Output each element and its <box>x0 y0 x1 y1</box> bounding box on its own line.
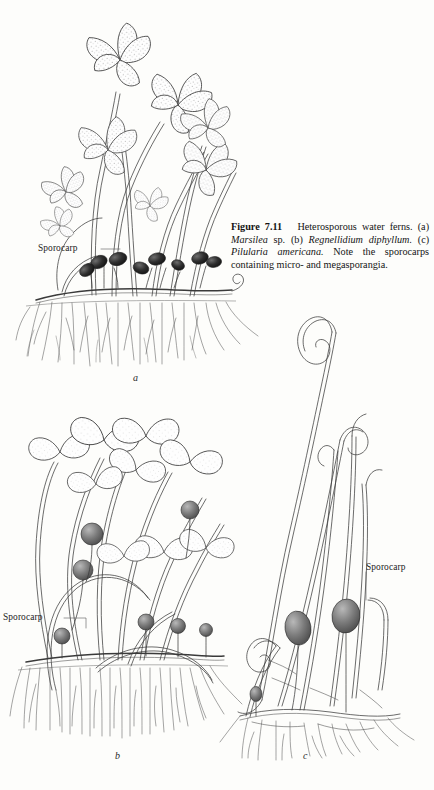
caption-a-suffix: sp. <box>274 234 286 245</box>
marsilea-illustration <box>16 20 258 366</box>
caption-c-prefix: (c) <box>418 234 429 245</box>
caption-c-species: Pilularia americana. <box>231 246 324 257</box>
caption-a-prefix: (a) <box>418 221 429 232</box>
caption-a-genus: Marsilea <box>231 234 268 245</box>
illustration-canvas <box>0 0 434 790</box>
pilularia-illustration <box>220 317 414 760</box>
panel-letter-c: c <box>303 750 307 761</box>
caption-b-species: Regnellidium diphyllum. <box>309 234 412 245</box>
panel-letter-b: b <box>115 750 120 761</box>
caption-lead: Heterosporous water ferns. <box>297 221 412 232</box>
figure-number: Figure 7.11 <box>231 221 282 232</box>
regnellidium-illustration <box>10 414 242 738</box>
caption-b-prefix: (b) <box>291 234 303 245</box>
sporocarp-label-c: Sporocarp <box>366 562 405 572</box>
figure-page: Figure 7.11 Heterosporous water ferns. (… <box>0 0 434 790</box>
figure-caption: Figure 7.11 Heterosporous water ferns. (… <box>231 221 429 271</box>
sporocarp-label-a: Sporocarp <box>38 243 77 253</box>
sporocarp-label-b: Sporocarp <box>3 612 42 622</box>
panel-letter-a: a <box>133 372 138 383</box>
